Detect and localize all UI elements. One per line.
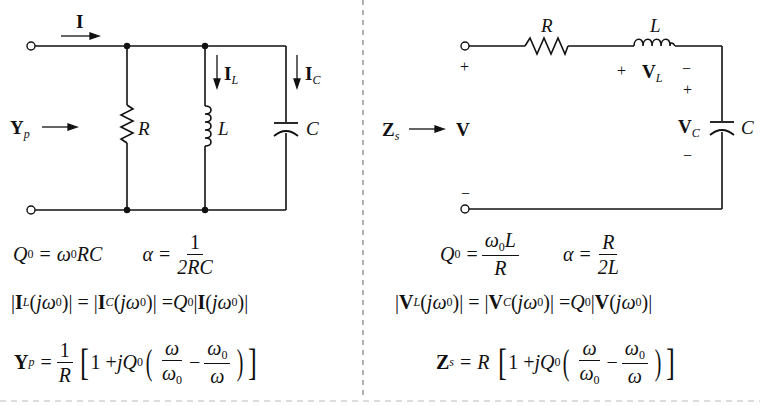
series-resistor-label: R	[541, 16, 553, 35]
terminal-bottom-right	[461, 205, 469, 213]
node-dot	[202, 43, 208, 49]
capacitor-label: C	[306, 119, 319, 138]
capacitor-current-label: IC	[305, 64, 320, 86]
series-resonance-formula: |VL(jω0)| = |VC(jω0)| = Q0|V(jω0)| |V_L(…	[395, 289, 652, 315]
inductor-label: L	[218, 119, 229, 138]
vc-minus-sign: −	[683, 148, 692, 164]
source-voltage-label: V	[456, 120, 470, 139]
current-arrows	[42, 33, 300, 130]
resistor-label: R	[138, 119, 150, 138]
node-dot	[124, 207, 130, 213]
source-current-label: I	[76, 12, 83, 31]
series-q0-alpha-formula: Q0 = ω0LR ω0L α= R2L	[440, 232, 626, 276]
inductor-voltage-label: VL	[642, 62, 662, 84]
impedance-arrow	[409, 126, 444, 132]
admittance-label: Yp	[10, 118, 30, 140]
inductor-current-label: IL	[224, 64, 238, 86]
node-dot	[124, 43, 130, 49]
input-minus-sign: −	[461, 186, 470, 202]
series-capacitor-label: C	[741, 118, 754, 137]
parallel-admittance-formula: Yp = 1R [1 + jQ0 ( ωω0 − ω0ω )] 1 + jQ0(…	[14, 336, 259, 388]
parallel-resonance-formula: |IL(jω0)| = |IC(jω0)| = Q0|I(jω0)| |I_L(…	[11, 289, 248, 315]
impedance-label: Zs	[382, 120, 399, 142]
parallel-q0-alpha-formula: Q0 = ω0RC α= 12RC	[13, 232, 220, 276]
series-inductor-label: L	[650, 16, 661, 35]
series-impedance-formula: Zs = R [1 + jQ0 ( ωω0 − ω0ω )] 1 + jQ0(ω…	[436, 336, 677, 388]
vl-plus-sign: +	[617, 63, 626, 79]
vl-minus-sign: −	[682, 61, 691, 77]
input-plus-sign: +	[460, 59, 469, 75]
terminal-top-right	[461, 42, 469, 50]
terminal-top-left	[27, 42, 35, 50]
capacitor-voltage-label: VC	[678, 117, 700, 139]
node-dot	[202, 207, 208, 213]
vc-plus-sign: +	[683, 82, 692, 98]
terminal-bottom-left	[27, 206, 35, 214]
